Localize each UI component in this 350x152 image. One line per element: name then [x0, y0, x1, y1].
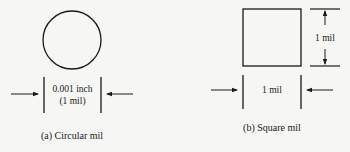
diagram: 0.001 inch (1 mil) (a) Circular mil 1 mi…: [0, 0, 350, 152]
square-mil-figure: 1 mil 1 mil (b) Square mil: [211, 9, 340, 134]
mil-diagram: 0.001 inch (1 mil) (a) Circular mil 1 mi…: [0, 0, 350, 152]
side-label: 1 mil: [315, 33, 335, 43]
caption-b: (b) Square mil: [243, 122, 301, 134]
caption-a: (a) Circular mil: [41, 130, 103, 142]
circle-shape: [43, 11, 101, 69]
circular-mil-figure: 0.001 inch (1 mil) (a) Circular mil: [11, 11, 133, 142]
dimension-label-mil: (1 mil): [59, 96, 85, 107]
square-shape: [243, 9, 301, 66]
bottom-label: 1 mil: [262, 85, 282, 95]
dimension-label-inch: 0.001 inch: [52, 84, 92, 94]
